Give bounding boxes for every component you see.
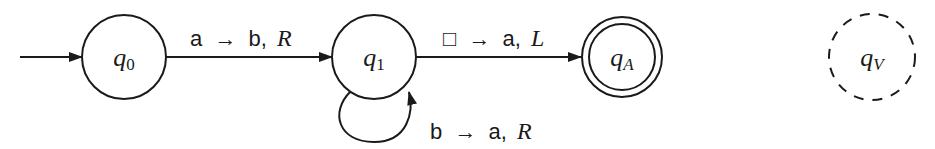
- transition-q1-q1-move: R: [516, 118, 532, 144]
- transition-q1-qA-arrow: →: [468, 26, 490, 51]
- transition-q1-qA: □ → a, L: [416, 25, 581, 57]
- transition-q0-q1-arrow: →: [214, 26, 236, 51]
- transition-q0-q1-write: b,: [249, 26, 267, 51]
- transition-q0-q1: a → b, R: [166, 25, 332, 57]
- state-q1-base: q: [363, 43, 376, 72]
- state-qA-accept: qA: [582, 17, 662, 97]
- transition-q1-q1-read: b: [430, 119, 442, 144]
- svg-text:b → a, R: b → a, R: [430, 118, 532, 144]
- svg-text:a → b, R: a → b, R: [190, 25, 292, 51]
- transition-q1-qA-move: L: [530, 25, 544, 51]
- state-q1: q1: [332, 15, 416, 99]
- state-q0-subscript: 0: [126, 55, 135, 74]
- transition-q1-qA-read: □: [443, 26, 456, 51]
- transition-q1-qA-write: a,: [503, 26, 521, 51]
- transition-q1-q1-write: a,: [489, 119, 507, 144]
- state-q1-subscript: 1: [376, 55, 385, 74]
- state-q0-base: q: [113, 43, 126, 72]
- state-qV-base: q: [860, 43, 873, 72]
- transition-q0-q1-read: a: [190, 26, 203, 51]
- state-qV-dashed: qV: [829, 14, 915, 100]
- state-qA-base: q: [610, 43, 623, 72]
- state-qA-subscript: A: [622, 55, 634, 74]
- transition-q1-q1-arrow: →: [454, 119, 476, 144]
- svg-text:□ → a, L: □ → a, L: [443, 25, 544, 51]
- transition-q1-self-loop: b → a, R: [339, 92, 532, 144]
- state-q0: q0: [82, 15, 166, 99]
- transition-q0-q1-move: R: [276, 25, 292, 51]
- state-diagram: a → b, R □ → a, L b → a, R q0: [0, 0, 935, 149]
